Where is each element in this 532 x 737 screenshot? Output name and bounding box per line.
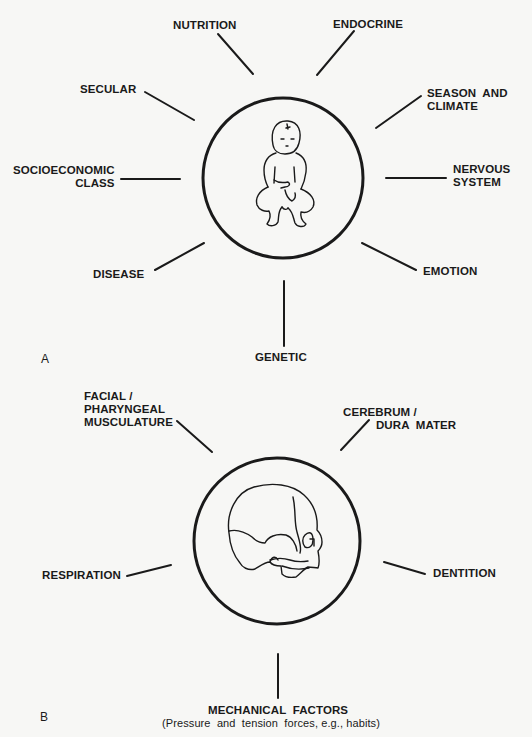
factor-label-disease: DISEASE xyxy=(93,268,144,281)
factor-label-facial-pharyngeal-musculature: FACIAL / PHARYNGEAL MUSCULATURE xyxy=(84,390,173,429)
connector-nutrition xyxy=(218,34,253,74)
panel-b-diagram xyxy=(127,420,425,698)
factor-note-mechanical-factors: (Pressure and tension forces, e.g., habi… xyxy=(162,717,380,730)
factor-label-secular: SECULAR xyxy=(80,83,136,96)
connector-secular xyxy=(145,92,194,120)
infant-circle xyxy=(203,98,363,258)
connector-emotion xyxy=(362,243,416,270)
panel-letter-a: A xyxy=(41,352,49,366)
panel-a-diagram xyxy=(121,31,446,346)
factor-label-nervous-system: NERVOUS SYSTEM xyxy=(453,163,510,189)
skull-icon xyxy=(228,484,322,577)
factor-label-dentition: DENTITION xyxy=(433,567,496,580)
infant-icon xyxy=(256,121,313,227)
skull-circle xyxy=(194,458,360,624)
factor-label-season-climate: SEASON AND CLIMATE xyxy=(427,87,508,113)
factor-label-socioeconomic-class: SOCIOECONOMIC CLASS xyxy=(13,164,115,190)
factor-label-emotion: EMOTION xyxy=(423,265,477,278)
factor-label-genetic: GENETIC xyxy=(255,351,307,364)
connector-dentition xyxy=(384,562,425,574)
factor-label-endocrine: ENDOCRINE xyxy=(333,18,403,31)
connector-season-climate xyxy=(376,96,421,128)
connector-disease xyxy=(155,243,204,270)
connector-respiration xyxy=(127,565,171,576)
factor-label-mechanical-factors: MECHANICAL FACTORS xyxy=(208,704,348,717)
connector-facial-pharyngeal xyxy=(177,421,212,452)
factor-label-respiration: RESPIRATION xyxy=(42,569,121,582)
factor-label-cerebrum-dura-mater: CEREBRUM / DURA MATER xyxy=(343,406,456,432)
factor-label-nutrition: NUTRITION xyxy=(173,19,237,32)
panel-letter-b: B xyxy=(40,710,48,724)
connector-endocrine xyxy=(317,31,354,75)
